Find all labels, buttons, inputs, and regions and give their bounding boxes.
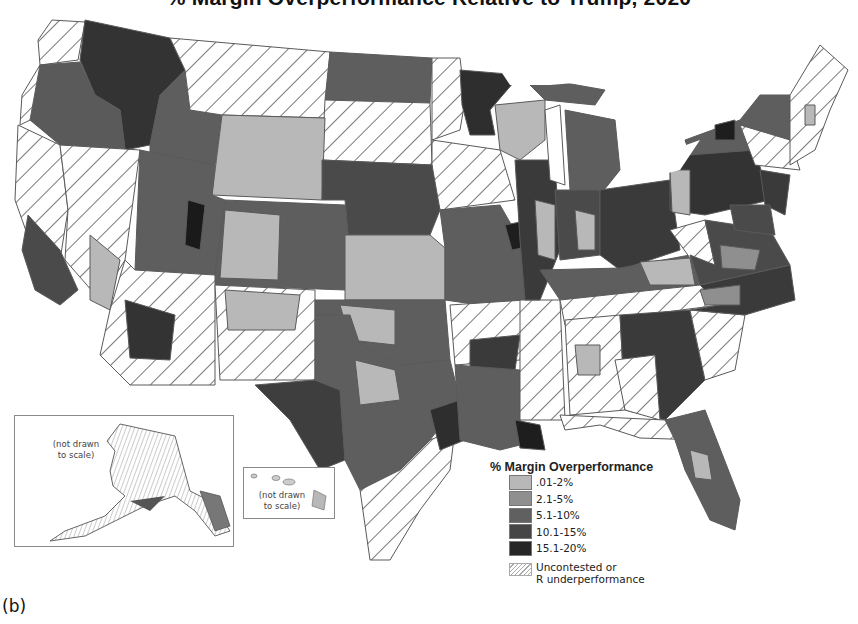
hawaii-inset: (not drawn to scale) — [243, 467, 335, 519]
legend-title: % Margin Overperformance — [490, 460, 690, 474]
region-wyoming — [212, 115, 325, 200]
legend-swatch-5 — [509, 541, 532, 556]
legend-swatch-2 — [509, 491, 532, 506]
legend-swatch-4 — [509, 524, 532, 539]
region-wisconsin — [495, 100, 545, 160]
legend-swatch-hatched — [509, 563, 532, 576]
region-ny-dark — [715, 120, 735, 140]
legend-swatch-3 — [509, 508, 532, 523]
region-colorado-light — [220, 210, 280, 280]
legend-item: .01-2% — [509, 474, 690, 491]
region-missouri — [440, 205, 525, 305]
region-maryland — [730, 205, 775, 235]
legend-item: 15.1-20% — [509, 540, 690, 557]
lake-superior — [500, 55, 610, 85]
region-ohio — [600, 180, 680, 270]
legend-item: 10.1-15% — [509, 524, 690, 541]
legend-item: 2.1-5% — [509, 491, 690, 508]
region-utah — [135, 150, 225, 275]
region-new-orleans — [515, 420, 545, 450]
alaska-note: (not drawn to scale) — [41, 439, 111, 461]
region-montana — [170, 38, 330, 118]
legend-swatch-1 — [509, 475, 532, 490]
region-indiana-light — [575, 210, 595, 250]
region-ky-light — [640, 258, 695, 285]
region-pa-light — [670, 170, 690, 215]
region-va-light — [720, 245, 760, 270]
region-south-dakota — [322, 100, 432, 165]
region-kansas — [345, 235, 445, 300]
region-nh-light — [805, 105, 815, 125]
legend-item: 5.1-10% — [509, 507, 690, 524]
region-wa-coast — [38, 20, 85, 65]
alaska-inset: (not drawn to scale) — [14, 415, 234, 547]
region-mississippi — [520, 300, 565, 420]
region-new-england — [790, 45, 848, 165]
region-nm-light — [225, 290, 300, 330]
region-north-dakota — [325, 52, 432, 103]
map-legend: % Margin Overperformance .01-2% 2.1-5% 5… — [490, 460, 690, 591]
region-michigan — [565, 110, 620, 195]
legend-item-uncontested: Uncontested or R underperformance — [509, 561, 690, 591]
region-alabama-light — [575, 345, 600, 375]
region-texas-west — [255, 380, 345, 470]
hawaii-note: (not drawn to scale) — [252, 490, 312, 512]
panel-label: (b) — [2, 596, 26, 616]
alaska-shape — [15, 416, 233, 546]
region-illinois-light — [535, 200, 555, 260]
